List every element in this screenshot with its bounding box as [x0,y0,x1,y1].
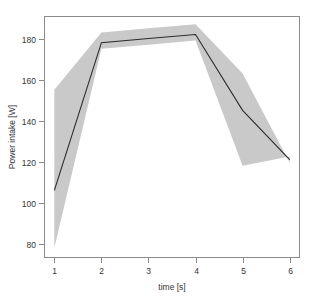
x-tick-label: 3 [146,266,151,276]
y-tick-label: 160 [22,76,36,86]
y-tick-label: 100 [22,199,36,209]
y-tick-label: 140 [22,117,36,127]
x-tick-label: 4 [194,266,199,276]
x-axis-title: time [s] [158,282,185,292]
x-tick-label: 2 [99,266,104,276]
x-tick-label: 5 [241,266,246,276]
x-axis-ticks [55,258,291,263]
x-axis-tick-labels: 123456 [52,266,293,276]
confidence-band [54,24,289,248]
y-tick-label: 80 [27,240,37,250]
power-intake-line-chart: 123456 80100120140160180 time [s] Power … [0,0,318,300]
y-axis-ticks [39,40,44,245]
y-axis-title: Power intake [W] [7,105,17,169]
y-tick-label: 180 [22,35,36,45]
x-tick-label: 1 [52,266,57,276]
chart-container: 123456 80100120140160180 time [s] Power … [0,0,318,300]
x-tick-label: 6 [288,266,293,276]
y-tick-label: 120 [22,158,36,168]
y-axis-tick-labels: 80100120140160180 [22,35,36,250]
